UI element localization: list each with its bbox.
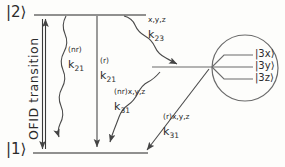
rate-sub-k23: 23 [154,34,164,43]
rate-sub-k21-nr: 21 [74,64,84,73]
rate-sup-k31-r: (r)x,y,z [163,112,190,121]
rate-sub-k31-nr: 31 [120,106,130,115]
rate-sub-k31-r: 31 [169,131,179,140]
diagram-canvas [0,0,285,167]
state-label-1: |1⟩ [6,142,26,157]
ofid-transition-arrow [43,19,46,149]
rate-label-k21-r: (r) k21 [100,57,116,83]
energy-level-diagram: |2⟩ |1⟩ OFID transition (nr) k21 (r) k21… [0,0,285,167]
sublevel-label-3y: |3y⟩ [255,61,275,71]
rate-label-k31-r: (r)x,y,z k31 [163,113,190,139]
rate-sub-k21-r: 21 [106,75,116,84]
rate-label-k31-nr: (nr)x,y,z k31 [114,88,145,114]
rate-label-k23: x,y,z k23 [148,16,166,42]
decay-arrow-k21-nr [58,16,67,137]
rate-sup-k21-nr: (nr) [68,45,82,54]
state-label-2: |2⟩ [6,5,26,20]
sublevel-fan [212,55,253,79]
sublevel-label-3x: |3x⟩ [255,49,275,59]
ofid-transition-label: OFID transition [26,37,41,140]
rate-sup-k23: x,y,z [148,15,166,24]
rate-label-k21-nr: (nr) k21 [68,46,84,72]
sublevel-label-3z: |3z⟩ [255,73,274,83]
rate-sup-k31-nr: (nr)x,y,z [114,87,145,96]
rate-sup-k21-r: (r) [100,56,109,65]
